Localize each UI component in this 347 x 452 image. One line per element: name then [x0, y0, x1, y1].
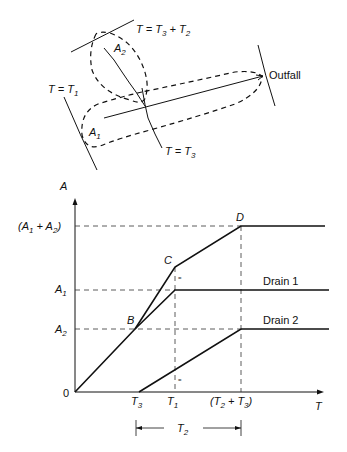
- drain-1-stream: [104, 76, 263, 118]
- figure: T = T3 + T2 T = T1 T = T3 A2 A1 Outfall …: [0, 0, 347, 452]
- point-c-label: C: [164, 254, 172, 266]
- drain-2-curve: [139, 329, 329, 392]
- x-tick-t2-plus-t3: (T2 + T3): [210, 395, 253, 410]
- label-t1: T = T1: [48, 83, 78, 98]
- map-labels: T = T3 + T2 T = T1 T = T3 A2 A1 Outfall: [48, 23, 301, 160]
- label-t3-plus-t2: T = T3 + T2: [136, 23, 191, 38]
- x-tick-t3: T3: [131, 395, 143, 410]
- y-axis-label: A: [59, 180, 67, 192]
- y-tick-a1-plus-a2: (A1 + A2): [18, 220, 61, 235]
- y-tick-a1: A1: [54, 283, 67, 298]
- guide-lines: [75, 226, 241, 392]
- point-b-label: B: [127, 314, 134, 326]
- label-t3: T = T3: [165, 145, 196, 160]
- catchment-a1-boundary: [82, 72, 262, 147]
- label-outfall: Outfall: [269, 69, 301, 81]
- point-d-label: D: [236, 211, 244, 223]
- x-axis-arrow-icon: [317, 390, 324, 395]
- chart-labels: A T 0 (A1 + A2) A1 A2 T3 T1 (T2 + T3) B …: [18, 180, 323, 437]
- origin-label: 0: [63, 387, 69, 399]
- x-tick-t1: T1: [167, 395, 178, 410]
- y-tick-a2: A2: [54, 323, 67, 338]
- label-a1: A1: [88, 126, 101, 141]
- label-a2: A2: [113, 42, 126, 57]
- drain-2-label: Drain 2: [263, 314, 298, 326]
- equal-mark-upper: =: [178, 275, 182, 281]
- x-axis-label: T: [315, 400, 323, 412]
- bracket-t2-label: T2: [177, 422, 189, 437]
- y-axis-arrow-icon: [73, 198, 78, 205]
- drain-1-label: Drain 1: [263, 275, 298, 287]
- bracket-left-arrow-icon: [136, 426, 142, 430]
- drain-1-curve: [75, 290, 329, 392]
- bracket-right-arrow-icon: [235, 426, 241, 430]
- equal-mark-lower: =: [178, 377, 182, 383]
- isochrone-t3: [142, 88, 162, 148]
